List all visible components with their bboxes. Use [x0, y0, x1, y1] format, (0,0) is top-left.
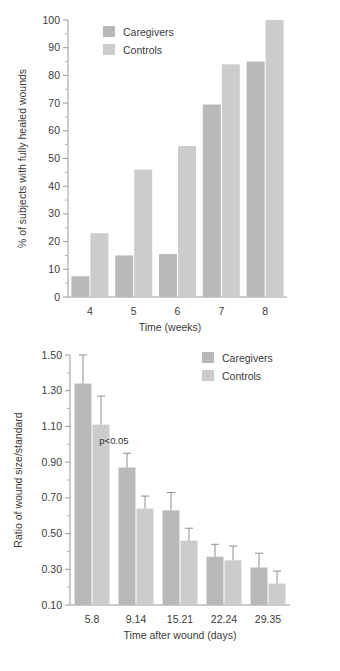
error-bar-controls: [185, 528, 193, 541]
x-tick-label: 5: [131, 305, 137, 317]
bar-caregivers: [207, 557, 224, 605]
bar-controls: [90, 233, 108, 297]
y-tick-label: 30: [48, 207, 60, 219]
error-bar-controls: [97, 396, 105, 425]
bar-caregivers: [203, 104, 221, 297]
y-tick-label: 0.10: [42, 599, 63, 611]
p-value-annotation: p<0.05: [99, 435, 128, 446]
x-tick-label: 15.21: [167, 613, 193, 625]
x-axis-title: Time after wound (days): [124, 629, 237, 641]
y-tick-label: 0: [54, 291, 60, 303]
error-bar-caregivers: [79, 355, 87, 384]
bar-controls: [93, 425, 110, 605]
bar-controls: [266, 20, 284, 297]
y-axis-title: % of subjects with fully healed wounds: [16, 69, 28, 248]
x-tick-label: 9.14: [126, 613, 147, 625]
y-tick-label: 0.50: [42, 527, 63, 539]
bar-caregivers: [71, 276, 89, 297]
bar-caregivers: [115, 255, 133, 297]
legend-swatch-controls: [202, 370, 214, 381]
y-tick-label: 10: [48, 263, 60, 275]
error-bar-controls: [141, 496, 149, 509]
y-tick-label: 60: [48, 124, 60, 136]
bar-controls: [225, 560, 242, 605]
legend-label-caregivers: Caregivers: [123, 26, 174, 38]
bar-controls: [134, 170, 152, 297]
y-tick-label: 20: [48, 235, 60, 247]
legend-label-caregivers: Caregivers: [222, 352, 273, 364]
legend-swatch-caregivers: [202, 352, 214, 363]
error-bar-caregivers: [167, 493, 175, 511]
y-tick-label: 1.50: [42, 349, 63, 361]
y-tick-label: 0.90: [42, 456, 63, 468]
y-tick-label: 70: [48, 97, 60, 109]
x-tick-label: 6: [175, 305, 181, 317]
bar-caregivers: [251, 568, 268, 606]
bar-caregivers: [247, 62, 265, 297]
bar-caregivers: [119, 468, 136, 606]
y-tick-label: 1.30: [42, 384, 63, 396]
error-bar-controls: [273, 571, 281, 584]
bar-caregivers: [75, 384, 92, 605]
wound-size-ratio-figure: 0.100.300.500.700.901.101.301.505.89.141…: [0, 330, 340, 671]
legend-swatch-caregivers: [103, 26, 115, 37]
y-tick-label: 50: [48, 152, 60, 164]
error-bar-caregivers: [211, 544, 219, 557]
x-tick-label: 7: [218, 305, 224, 317]
error-bar-caregivers: [123, 453, 131, 467]
bar-controls: [137, 509, 154, 605]
legend-label-controls: Controls: [123, 44, 162, 56]
x-tick-label: 4: [87, 305, 93, 317]
error-bar-controls: [229, 546, 237, 560]
y-axis-title: Ratio of wound size/standard: [12, 412, 24, 548]
wound-size-ratio-chart: 0.100.300.500.700.901.101.301.505.89.141…: [0, 330, 340, 671]
healed-wounds-chart: 010203040506070809010045678Time (weeks)%…: [0, 0, 340, 340]
y-tick-label: 90: [48, 41, 60, 53]
y-tick-label: 40: [48, 180, 60, 192]
y-tick-label: 0.30: [42, 563, 63, 575]
bar-controls: [269, 584, 286, 605]
x-tick-label: 22.24: [211, 613, 237, 625]
bar-controls: [222, 64, 240, 297]
y-tick-label: 1.10: [42, 420, 63, 432]
bar-controls: [178, 146, 196, 297]
x-tick-label: 5.8: [85, 613, 100, 625]
y-tick-label: 100: [42, 14, 60, 26]
x-tick-label: 29.35: [255, 613, 281, 625]
y-tick-label: 80: [48, 69, 60, 81]
error-bar-caregivers: [255, 553, 263, 567]
y-tick-label: 0.70: [42, 491, 63, 503]
bar-controls: [181, 541, 198, 605]
legend-label-controls: Controls: [222, 370, 261, 382]
bar-caregivers: [163, 510, 180, 605]
bar-caregivers: [159, 254, 177, 297]
x-tick-label: 8: [262, 305, 268, 317]
legend-swatch-controls: [103, 44, 115, 55]
healed-wounds-figure: 010203040506070809010045678Time (weeks)%…: [0, 0, 340, 340]
